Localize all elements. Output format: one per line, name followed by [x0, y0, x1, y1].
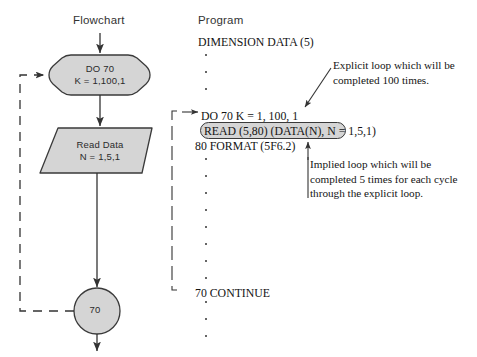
flow-node-read-data-line2: N = 1,5,1	[55, 151, 145, 163]
annotation-explicit-loop: Explicit loop which will be completed 10…	[333, 58, 477, 87]
flow-node-do-loop-line1: DO 70	[55, 63, 145, 75]
program-line-continue: 70 CONTINUE	[195, 287, 270, 300]
ellipsis-dot	[205, 54, 207, 56]
ellipsis-dot	[205, 158, 207, 160]
flow-node-connector-70-label: 70	[75, 304, 115, 316]
ellipsis-dot	[205, 226, 207, 228]
ellipsis-dot	[205, 88, 207, 90]
ellipsis-dot	[205, 209, 207, 211]
ellipsis-dot	[205, 277, 207, 279]
figure-canvas: Flowchart Program	[0, 0, 477, 357]
flow-node-read-data-line1: Read Data	[55, 139, 145, 151]
flow-node-do-loop-line2: K = 1,100,1	[55, 75, 145, 87]
annotation-implied-loop: Implied loop which will be completed 5 t…	[310, 157, 470, 201]
flow-node-do-loop-label: DO 70 K = 1,100,1	[55, 63, 145, 87]
annotation-leader-explicit	[305, 68, 331, 107]
flow-node-read-data-label: Read Data N = 1,5,1	[55, 139, 145, 163]
program-loop-bracket	[172, 111, 198, 290]
ellipsis-dot	[205, 260, 207, 262]
program-line-read: READ (5,80) (DATA(N), N = 1,5,1)	[204, 125, 376, 138]
ellipsis-dot	[205, 318, 207, 320]
ellipsis-dot	[205, 301, 207, 303]
ellipsis-dot	[205, 71, 207, 73]
program-line-dimension: DIMENSION DATA (5)	[198, 36, 314, 49]
program-line-format: 80 FORMAT (5F6.2)	[195, 140, 295, 153]
flow-edge-feedback-dashed	[20, 75, 74, 311]
ellipsis-dot	[205, 192, 207, 194]
ellipsis-dot	[205, 335, 207, 337]
ellipsis-dot	[205, 175, 207, 177]
ellipsis-dot	[205, 243, 207, 245]
